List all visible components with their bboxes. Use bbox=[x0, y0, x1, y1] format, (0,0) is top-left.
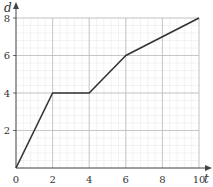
tick-labels: 02468102468 bbox=[4, 13, 206, 186]
distance-time-graph: 02468102468 t d bbox=[0, 0, 213, 187]
y-axis-label: d bbox=[4, 1, 12, 15]
x-axis-label: t bbox=[204, 172, 209, 186]
y-tick-label: 6 bbox=[4, 50, 10, 61]
x-tick-label: 8 bbox=[159, 174, 165, 185]
x-tick-label: 0 bbox=[13, 174, 19, 185]
x-axis-arrow-icon bbox=[205, 165, 212, 171]
x-tick-label: 4 bbox=[86, 174, 92, 185]
y-axis-arrow-icon bbox=[13, 2, 19, 9]
x-tick-label: 2 bbox=[49, 174, 55, 185]
y-tick-label: 4 bbox=[4, 88, 10, 99]
x-tick-label: 6 bbox=[123, 174, 129, 185]
y-tick-label: 2 bbox=[4, 125, 10, 136]
